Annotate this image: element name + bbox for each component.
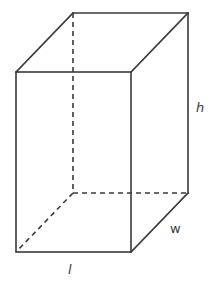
hidden-edge-bottom-left-depth	[16, 193, 73, 252]
edge-top-right-depth	[131, 13, 188, 72]
length-label: l	[68, 262, 72, 277]
width-label: w	[170, 221, 181, 236]
rectangular-prism-diagram: h w l	[0, 0, 212, 286]
edge-top-left-depth	[16, 13, 73, 72]
height-label: h	[196, 100, 204, 115]
